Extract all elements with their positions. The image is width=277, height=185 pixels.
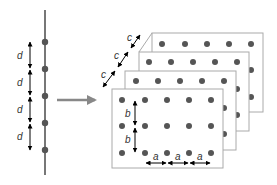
chain-atom <box>42 39 48 45</box>
c-label: c <box>127 32 132 43</box>
d-label: d <box>17 77 23 88</box>
chain-atom <box>42 93 48 99</box>
d-label: d <box>17 50 23 61</box>
chain-atom <box>42 120 48 126</box>
atom-chain <box>42 10 48 175</box>
chain-atom <box>42 66 48 72</box>
d-spacing-arrows: d d d d <box>17 42 30 150</box>
a-spacing-arrows: a a a <box>146 151 210 163</box>
c-label: c <box>101 69 106 80</box>
c-label: c <box>114 50 119 61</box>
b-label: b <box>125 108 131 119</box>
a-label: a <box>197 151 203 162</box>
lattice-diagram: d d d d <box>0 0 277 185</box>
a-label: a <box>153 151 159 162</box>
a-label: a <box>175 151 181 162</box>
lattice-plane-1 <box>112 89 223 168</box>
plane-edge <box>139 33 152 52</box>
d-label: d <box>17 131 23 142</box>
d-label: d <box>17 104 23 115</box>
b-label: b <box>125 134 131 145</box>
chain-atom <box>42 147 48 153</box>
